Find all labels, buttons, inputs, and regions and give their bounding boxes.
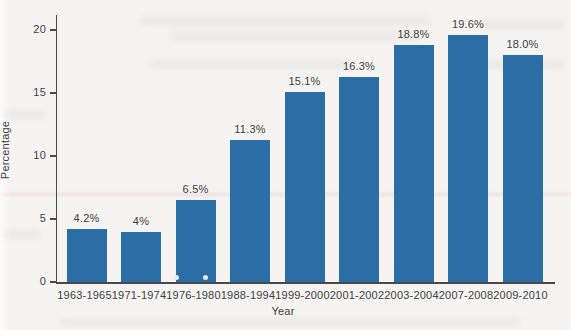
scanned-bar-chart-page: Percentage Year 051015204.2%1963-19654%1…	[0, 0, 571, 330]
bar-value-label: 18.8%	[384, 28, 444, 40]
y-tick-mark	[50, 92, 56, 94]
scan-artifact-dot	[203, 275, 208, 280]
x-axis-line	[56, 282, 556, 284]
y-tick-mark	[50, 218, 56, 220]
bar	[394, 45, 434, 282]
y-tick-label: 0	[18, 275, 46, 287]
y-tick-label: 10	[18, 149, 46, 161]
bar-value-label: 16.3%	[329, 60, 389, 72]
x-tick-label: 2009-2010	[489, 289, 553, 301]
y-tick-label: 15	[18, 86, 46, 98]
y-tick-label: 20	[18, 23, 46, 35]
bar	[67, 229, 107, 282]
bar-value-label: 4.2%	[57, 212, 117, 224]
y-tick-mark	[50, 29, 56, 31]
bar	[339, 77, 379, 282]
bar	[176, 200, 216, 282]
bar	[503, 55, 543, 282]
scan-artifact-dot	[174, 275, 179, 280]
y-axis-line	[56, 15, 58, 284]
bar	[121, 232, 161, 282]
bar	[448, 35, 488, 282]
bar	[285, 92, 325, 282]
bar	[230, 140, 270, 282]
bar-value-label: 6.5%	[166, 183, 226, 195]
plot-area: 051015204.2%1963-19654%1971-19746.5%1976…	[0, 0, 571, 330]
bar-value-label: 4%	[111, 215, 171, 227]
bar-value-label: 18.0%	[493, 38, 553, 50]
y-tick-mark	[50, 281, 56, 283]
y-tick-label: 5	[18, 212, 46, 224]
bar-value-label: 19.6%	[438, 18, 498, 30]
bar-value-label: 15.1%	[275, 75, 335, 87]
bar-chart: Percentage Year 051015204.2%1963-19654%1…	[0, 0, 571, 330]
y-tick-mark	[50, 155, 56, 157]
bar-value-label: 11.3%	[220, 123, 280, 135]
